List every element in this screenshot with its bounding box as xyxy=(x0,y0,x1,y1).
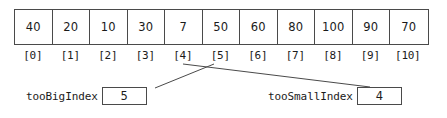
array-cell: 30 xyxy=(128,10,166,44)
variable-value-toosmallindex: 4 xyxy=(357,87,402,105)
array-cell: 60 xyxy=(240,10,278,44)
array-cell: 40 xyxy=(15,10,53,44)
array-cell: 50 xyxy=(203,10,241,44)
array-cell: 7 xyxy=(165,10,203,44)
index-label: [2] xyxy=(89,49,127,62)
index-label: [5] xyxy=(202,49,240,62)
array-cell: 90 xyxy=(353,10,391,44)
array-cell: 20 xyxy=(53,10,91,44)
index-label: [10] xyxy=(389,49,427,62)
index-label: [9] xyxy=(352,49,390,62)
variable-label-toobigindex: tooBigIndex xyxy=(26,90,102,103)
index-label: [8] xyxy=(314,49,352,62)
connector-toobigindex xyxy=(155,64,214,88)
variable-toosmallindex: tooSmallIndex 4 xyxy=(268,87,402,105)
array-cell: 100 xyxy=(315,10,353,44)
index-label: [6] xyxy=(239,49,277,62)
index-label-row: [0] [1] [2] [3] [4] [5] [6] [7] [8] [9] … xyxy=(14,49,427,62)
index-label: [1] xyxy=(52,49,90,62)
variable-value-toobigindex: 5 xyxy=(102,87,147,105)
connector-toosmallindex xyxy=(183,64,370,87)
index-label: [7] xyxy=(277,49,315,62)
index-label: [3] xyxy=(127,49,165,62)
index-label: [4] xyxy=(164,49,202,62)
variable-label-toosmallindex: tooSmallIndex xyxy=(268,90,357,103)
array-cell: 80 xyxy=(278,10,316,44)
variable-toobigindex: tooBigIndex 5 xyxy=(26,87,147,105)
array-cell: 70 xyxy=(390,10,428,44)
array-container: 40 20 10 30 7 50 60 80 100 90 70 xyxy=(14,9,429,45)
array-cell: 10 xyxy=(90,10,128,44)
index-label: [0] xyxy=(14,49,52,62)
array-index-diagram: 40 20 10 30 7 50 60 80 100 90 70 [0] [1]… xyxy=(0,0,447,118)
